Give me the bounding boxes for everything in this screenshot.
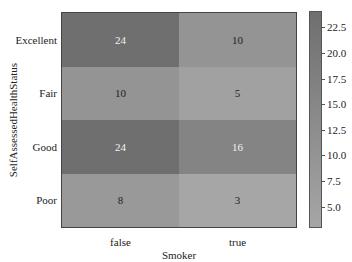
colorbar-tick-label: 10.0 [327, 149, 346, 161]
y-axis-label: SelfAssessedHealthStatus [7, 63, 19, 177]
colorbar-tick-label: 7.5 [327, 175, 341, 187]
colorbar-tick-label: 5.0 [327, 201, 341, 213]
x-tick-label: true [229, 236, 246, 248]
y-tick-label: Fair [39, 87, 57, 99]
colorbar-tick-label: 22.5 [327, 21, 346, 33]
colorbar [309, 11, 322, 228]
heatmap-cell: 10 [179, 13, 296, 67]
y-tick-label: Excellent [15, 34, 57, 46]
x-tick-label: false [110, 236, 131, 248]
colorbar-tick-label: 20.0 [327, 47, 346, 59]
colorbar-tick-label: 15.0 [327, 98, 346, 110]
heatmap-cell: 10 [62, 67, 179, 121]
heatmap-plot-area: 2410105241683 [61, 12, 297, 228]
heatmap-cell: 24 [62, 13, 179, 67]
colorbar-tick-label: 12.5 [327, 124, 346, 136]
heatmap-cell: 3 [179, 174, 296, 228]
y-tick-label: Poor [36, 194, 57, 206]
colorbar-tick-label: 17.5 [327, 73, 346, 85]
heatmap-cell: 24 [62, 120, 179, 174]
heatmap-cell: 5 [179, 67, 296, 121]
x-axis-label: Smoker [162, 249, 196, 261]
heatmap-cell: 16 [179, 120, 296, 174]
heatmap-cell: 8 [62, 174, 179, 228]
y-tick-label: Good [33, 141, 57, 153]
